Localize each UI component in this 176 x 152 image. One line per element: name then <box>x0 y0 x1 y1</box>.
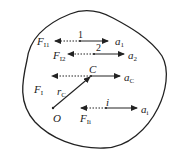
particle-1-force-label: FI1 <box>37 36 50 49</box>
diagram-canvas <box>0 0 176 152</box>
particle-i-force-label: FIi <box>80 113 91 126</box>
origin-dot <box>52 107 54 109</box>
particle-2-dot <box>93 53 95 55</box>
particle-i-label: i <box>106 97 109 108</box>
particle-1-dot <box>79 40 81 42</box>
particle-2-force-label: FI2 <box>53 50 66 63</box>
position-vector-label: rC <box>57 86 66 99</box>
com-accel-label: aC <box>124 72 134 85</box>
com-dot <box>90 75 92 77</box>
particle-i-accel-label: ai <box>141 104 148 117</box>
particle-2-accel-label: a2 <box>128 50 137 63</box>
particle-2-label: 2 <box>96 43 101 53</box>
particle-1-accel-label: a1 <box>115 36 124 49</box>
body-boundary <box>23 11 167 148</box>
com-force-label: FI <box>34 84 43 97</box>
particle-1-label: 1 <box>78 30 83 40</box>
origin-label: O <box>53 113 61 124</box>
com-label: C <box>89 64 96 75</box>
